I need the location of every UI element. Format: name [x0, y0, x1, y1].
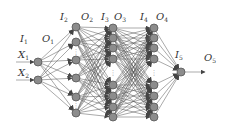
connection-edge [156, 75, 178, 104]
connection-edge [42, 44, 73, 60]
input-label: X2 [17, 67, 29, 79]
neuron-node [109, 81, 117, 89]
neuron-node [34, 58, 42, 66]
neuron-node [150, 55, 158, 63]
layer-io-label: O5 [204, 52, 216, 64]
neuron-node [177, 68, 185, 76]
connection-edge [42, 82, 73, 96]
neuron-nodes: ⋮⋮⋮⋮ [34, 23, 185, 121]
neuron-node [109, 44, 117, 52]
ellipsis-dots: ⋮ [110, 69, 117, 77]
layer-io-label: O2 [81, 11, 93, 23]
neuron-node [109, 103, 117, 111]
neural-network-diagram: ⋮⋮⋮⋮ X1X2I1O1I2O2I3O3I4O4I5O5 [0, 0, 229, 133]
neuron-node [72, 23, 80, 31]
neuron-node [72, 93, 80, 101]
ellipsis-dots: ⋮ [151, 69, 158, 77]
connection-edge [80, 27, 109, 28]
neuron-node [109, 92, 117, 100]
neuron-node [34, 76, 42, 84]
layer-io-label: O1 [42, 33, 54, 45]
input-label: X1 [17, 49, 29, 61]
connection-edge [80, 113, 109, 116]
connection-edge [80, 108, 109, 113]
connection-edge [158, 74, 178, 84]
connection-edge [158, 61, 178, 71]
neuron-node [109, 113, 117, 121]
neuron-node [150, 34, 158, 42]
neuron-node [150, 92, 158, 100]
connection-edge [41, 83, 73, 111]
ellipsis-dots: ⋮ [73, 48, 80, 56]
neuron-node [109, 34, 117, 42]
neuron-node [150, 24, 158, 32]
layer-io-label: I1 [19, 33, 28, 45]
neuron-node [150, 44, 158, 52]
ellipsis-dots: ⋮ [73, 102, 80, 110]
connection-edge [80, 28, 109, 37]
layer-io-label: O3 [114, 11, 126, 23]
neuron-node [150, 113, 158, 121]
layer-io-label: I5 [174, 49, 183, 61]
neuron-node [72, 38, 80, 46]
layer-io-label: I4 [139, 11, 148, 23]
neuron-node [72, 56, 80, 64]
connection-edge [42, 62, 73, 78]
neuron-node [109, 24, 117, 32]
layer-io-label: I3 [100, 11, 109, 23]
neuron-node [150, 81, 158, 89]
layer-io-label: O4 [156, 11, 168, 23]
connection-edge [41, 45, 73, 77]
connection-edge [156, 75, 179, 113]
connection-edge [40, 65, 73, 110]
layer-io-label: I2 [59, 11, 68, 23]
connection-edge [157, 75, 178, 94]
neuron-node [150, 103, 158, 111]
neuron-node [72, 109, 80, 117]
neuron-node [109, 55, 117, 63]
neuron-node [72, 74, 80, 82]
